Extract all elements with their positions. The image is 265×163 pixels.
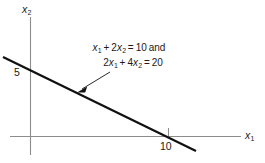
equation-line-1: x1+2x2=10and [74,41,186,56]
eq2-term2: x2 [133,57,142,68]
equation-line-2: 2x1+4x2=20 [74,56,186,71]
eq1-equals: = [126,42,136,53]
eq2-rhs: 20 [152,57,163,68]
eq1-plus: + [101,42,111,53]
equation-annotation: x1+2x2=10and 2x1+4x2=20 [74,41,186,71]
eq2-equals: = [142,57,152,68]
eq2-term1: x1 [109,57,118,68]
y-tick-label-5: 5 [14,67,20,78]
y-axis-label: x2 [22,4,31,15]
x-tick-label-10: 10 [160,141,172,152]
eq1-conjunction: and [147,42,168,53]
annotation-arrowhead-icon [77,87,87,93]
x-axis-label: x1 [245,130,254,141]
eq1-term2: x2 [117,42,126,53]
eq1-rhs: 10 [136,42,147,53]
annotation-leader-line [82,72,110,89]
figure-graph-of-equivalent-linear-equations: x2 x1 5 10 x1+2x2=10and 2x1+4x2=20 [0,0,265,163]
plot-area [0,0,265,163]
eq2-plus: + [118,57,128,68]
